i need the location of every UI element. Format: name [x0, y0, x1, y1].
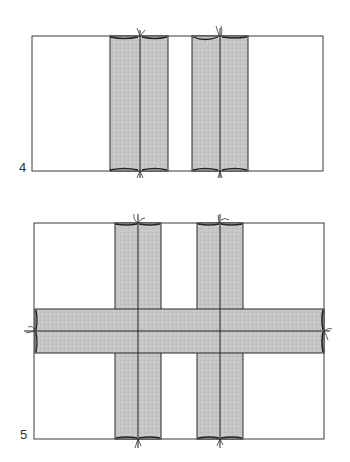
step-number-4: 4	[19, 160, 26, 175]
step-4-diagram	[32, 26, 323, 178]
step-5-horizontal-strip	[24, 309, 332, 353]
step-number-5: 5	[20, 427, 27, 442]
thread-top-icon	[137, 28, 145, 36]
step-4-strip-1	[110, 28, 168, 178]
thread-right-icon	[324, 328, 332, 340]
thread-top-icon	[134, 214, 145, 223]
step-5-diagram	[24, 214, 332, 448]
diagram-canvas	[0, 0, 350, 462]
thread-top-icon	[216, 26, 222, 36]
step-4-panel	[32, 36, 323, 171]
step-4-strip-2	[192, 26, 248, 178]
